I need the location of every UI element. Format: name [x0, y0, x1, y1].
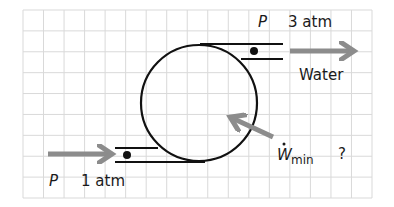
work-unknown-value: ?: [338, 145, 346, 163]
inlet-state-dot: [123, 151, 131, 159]
work-input-arrow: [232, 118, 273, 137]
inlet-pressure-symbol: P: [49, 172, 59, 190]
outlet-pressure-symbol: P: [258, 13, 268, 31]
outlet-pressure-value: 3 atm: [288, 13, 332, 31]
graph-paper-grid: [23, 10, 372, 198]
inlet-pressure-value: 1 atm: [81, 172, 125, 190]
work-subscript: min: [291, 153, 314, 167]
fluid-label: Water: [299, 66, 344, 84]
work-rate-dot: [283, 143, 286, 146]
pump-diagram: P 3 atm Water P 1 atm W min ?: [0, 0, 394, 207]
pump-body-circle: [141, 45, 257, 161]
outlet-state-dot: [250, 47, 258, 55]
work-input-label: W min ?: [277, 143, 346, 168]
